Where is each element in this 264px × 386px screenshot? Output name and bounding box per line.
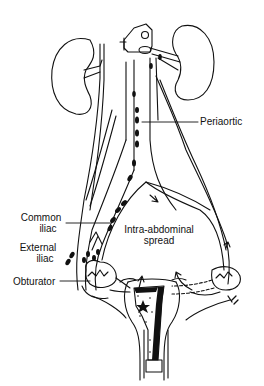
right-common-iliac [85, 140, 126, 290]
label-external-iliac-line1: External [14, 242, 62, 253]
left-kidney [173, 25, 214, 100]
cervix [146, 360, 162, 372]
label-obturator: Obturator [13, 276, 55, 287]
right-renal-vessels [84, 60, 102, 78]
label-intra-abdominal-line2: spread [118, 235, 200, 246]
label-periaortic: Periaortic [200, 116, 242, 127]
label-intra-abdominal-spread: Intra-abdominal spread [118, 224, 200, 246]
label-intra-abdominal-line1: Intra-abdominal [118, 224, 200, 235]
lymphatic-spread-diagram [0, 0, 264, 386]
left-renal-vessels [150, 48, 180, 70]
spread-arrow-1 [150, 195, 158, 202]
vertebral-foramen [142, 32, 149, 39]
vertebra [124, 24, 152, 52]
label-common-iliac: Common iliac [17, 212, 65, 234]
vena-cava [126, 60, 134, 170]
spread-arrow-3 [175, 272, 192, 290]
label-common-iliac-line1: Common [17, 212, 65, 223]
label-external-iliac-line2: iliac [14, 253, 62, 264]
label-common-iliac-line2: iliac [17, 223, 65, 234]
left-ureter [156, 76, 229, 284]
label-external-iliac: External iliac [14, 242, 62, 264]
